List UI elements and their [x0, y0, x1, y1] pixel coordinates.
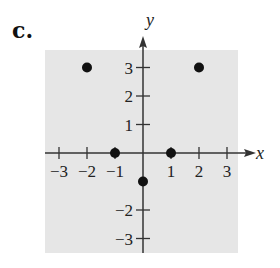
data-point — [138, 177, 148, 187]
y-tick-label: 2 — [125, 87, 134, 106]
x-tick-label: 2 — [195, 162, 204, 181]
y-tick-label: 1 — [125, 116, 134, 135]
y-tick-label: −2 — [115, 201, 133, 220]
data-point — [110, 148, 120, 158]
data-point — [194, 63, 204, 73]
x-tick-label: −2 — [78, 162, 96, 181]
x-tick-label: 1 — [167, 162, 176, 181]
plot-background — [45, 50, 238, 253]
y-axis-label: y — [144, 10, 154, 30]
y-tick-label: −3 — [115, 230, 133, 249]
y-tick-label: 3 — [125, 59, 134, 78]
scatter-plot: −3−2−1123321−2−3 y x — [0, 0, 280, 268]
x-tick-label: −1 — [106, 162, 124, 181]
data-point — [82, 63, 92, 73]
x-tick-label: 3 — [223, 162, 232, 181]
data-point — [166, 148, 176, 158]
x-tick-label: −3 — [50, 162, 68, 181]
x-axis-label: x — [255, 143, 264, 163]
